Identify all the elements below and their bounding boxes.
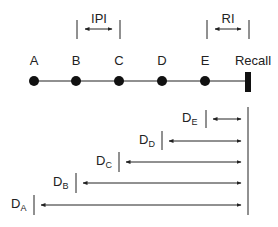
study-point-e (200, 76, 210, 86)
delay-arrow-a (34, 195, 241, 215)
point-label-b: B (72, 54, 81, 67)
study-point-d (157, 76, 167, 86)
point-label-e: E (201, 54, 210, 67)
timeline (29, 72, 251, 92)
point-label-a: A (30, 54, 39, 67)
study-point-c (114, 76, 124, 86)
delay-label-c: DC (96, 154, 112, 170)
delay-arrow-d (162, 131, 241, 150)
retention-interval-diagram (0, 0, 278, 227)
delay-label-d: DD (139, 133, 155, 149)
delay-arrow-b (76, 173, 241, 193)
recall-label: Recall (235, 54, 271, 67)
ipi-label: IPI (91, 12, 107, 25)
point-label-c: C (114, 54, 123, 67)
recall-bar (245, 72, 251, 92)
delay-label-e: DE (182, 111, 197, 127)
delay-label-b: DB (53, 175, 68, 191)
study-point-a (29, 76, 39, 86)
ri-label: RI (222, 12, 235, 25)
point-label-d: D (157, 54, 166, 67)
delay-label-a: DA (11, 197, 26, 213)
delay-arrow-e (206, 110, 241, 128)
study-point-b (71, 76, 81, 86)
delay-arrow-c (119, 152, 241, 172)
